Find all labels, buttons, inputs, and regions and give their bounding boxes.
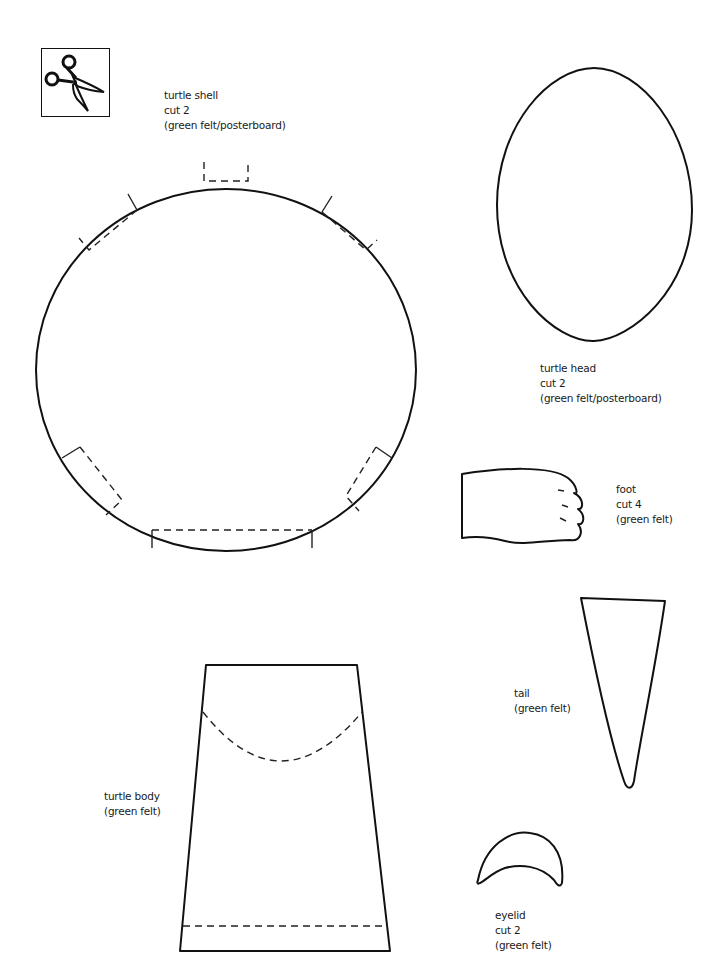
- piece-name: eyelid: [495, 908, 552, 923]
- tail-pattern: [581, 598, 665, 788]
- eyelid-label: eyelid cut 2 (green felt): [495, 908, 552, 953]
- piece-name: turtle body: [104, 789, 161, 804]
- turtle-head-pattern: [497, 68, 692, 341]
- piece-name: tail: [514, 686, 571, 701]
- piece-material: (green felt/posterboard): [540, 391, 662, 406]
- piece-material: (green felt): [104, 804, 161, 819]
- turtle-shell-label: turtle shell cut 2 (green felt/posterboa…: [164, 88, 286, 133]
- tail-label: tail (green felt): [514, 686, 571, 716]
- piece-name: turtle shell: [164, 88, 286, 103]
- piece-quantity: cut 2: [495, 923, 552, 938]
- foot-pattern: [462, 469, 583, 543]
- piece-quantity: cut 2: [540, 376, 662, 391]
- piece-quantity: cut 4: [616, 497, 673, 512]
- pattern-artwork: [0, 0, 717, 964]
- turtle-head-label: turtle head cut 2 (green felt/posterboar…: [540, 361, 662, 406]
- turtle-shell-pattern: [36, 162, 416, 551]
- piece-material: (green felt): [616, 512, 673, 527]
- turtle-body-label: turtle body (green felt): [104, 789, 161, 819]
- foot-label: foot cut 4 (green felt): [616, 482, 673, 527]
- eyelid-pattern: [477, 833, 562, 886]
- piece-quantity: cut 2: [164, 103, 286, 118]
- piece-material: (green felt): [495, 938, 552, 953]
- piece-name: turtle head: [540, 361, 662, 376]
- turtle-body-pattern: [180, 665, 390, 951]
- piece-name: foot: [616, 482, 673, 497]
- piece-material: (green felt/posterboard): [164, 118, 286, 133]
- piece-material: (green felt): [514, 701, 571, 716]
